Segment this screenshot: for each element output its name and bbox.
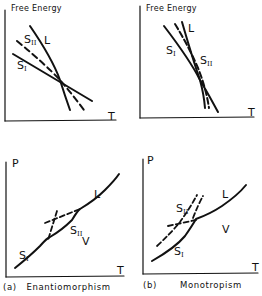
caption-tag: (b) [143, 280, 157, 290]
bottom-left-solid-curve [15, 174, 119, 268]
subscript: II [77, 230, 83, 238]
subscript: II [183, 208, 189, 216]
top-right-axes [140, 6, 254, 118]
bottom-right-solid-curve [152, 185, 246, 261]
bottom-left-x-axis-label: T [117, 265, 124, 276]
s-letter: S [200, 54, 207, 67]
s-letter: S [174, 245, 181, 258]
caption-tag: (a) [3, 282, 17, 292]
diagram-canvas [0, 0, 262, 296]
subscript: II [207, 60, 213, 68]
s-letter: S [24, 33, 31, 46]
top-left-label-S1: SI [17, 60, 27, 73]
caption-a: (a) Enantiomorphism [3, 283, 111, 292]
top-left-y-axis-label: Free Energy [11, 5, 62, 13]
subscript: I [173, 50, 176, 58]
bottom-right-y-axis-label: P [147, 155, 154, 166]
top-left-x-axis-label: T [108, 111, 115, 122]
subscript: I [24, 65, 27, 73]
bottom-right-label-S2: SII [176, 203, 189, 216]
bottom-right-x-axis-label: T [252, 262, 259, 273]
top-left-label-L: L [44, 35, 50, 46]
bottom-left-label-S2: SII [70, 225, 83, 238]
caption-text: Enantiomorphism [27, 282, 111, 292]
top-right-curve-S1 [164, 26, 218, 112]
s-letter: S [17, 59, 24, 72]
bottom-right-label-S1: SI [174, 246, 184, 259]
s-letter: S [176, 202, 183, 215]
subscript: I [181, 251, 184, 259]
caption-b: (b) Monotropism [143, 281, 242, 290]
subscript: I [26, 255, 29, 263]
bottom-right-label-V: V [222, 224, 230, 235]
bottom-left-label-V: V [82, 236, 90, 247]
top-right-x-axis-label: T [248, 107, 255, 118]
bottom-left-label-S1: SI [19, 250, 29, 263]
s-letter: S [166, 44, 173, 57]
bottom-left-label-L: L [94, 189, 100, 200]
top-right-y-axis-label: Free Energy [146, 5, 197, 13]
caption-text: Monotropism [180, 280, 242, 290]
bottom-left-y-axis-label: P [12, 158, 19, 169]
top-right-label-S1: SI [166, 45, 176, 58]
s-letter: S [19, 249, 26, 262]
top-right-label-L: L [188, 23, 194, 34]
subscript: II [31, 39, 37, 47]
top-left-label-S2: SII [24, 34, 37, 47]
s-letter: S [70, 224, 77, 237]
bottom-right-label-L: L [222, 189, 228, 200]
top-right-label-S2: SII [200, 55, 213, 68]
